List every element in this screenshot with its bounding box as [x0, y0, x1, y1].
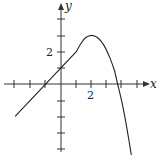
x-axis-label: x [150, 77, 157, 91]
function-graph: x 2 y 2 [0, 0, 157, 155]
x-axis-arrow-icon [143, 81, 150, 87]
y-tick-label-2: 2 [46, 46, 53, 59]
function-curve [15, 35, 131, 155]
y-axis: y 2 [46, 0, 72, 152]
x-axis: x 2 [4, 77, 157, 102]
y-axis-label: y [64, 0, 72, 13]
y-axis-arrow-icon [58, 3, 64, 10]
x-tick-label-2: 2 [87, 89, 94, 102]
